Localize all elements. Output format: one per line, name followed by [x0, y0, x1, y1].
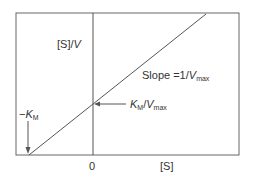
x-axis-label: [S] — [160, 160, 173, 172]
y-label-bracket: [S] — [57, 38, 70, 50]
x-intercept-arrowhead-icon — [26, 147, 31, 154]
hanes-woolf-plot — [0, 0, 254, 180]
slope-sub: max — [196, 75, 209, 82]
intercept-label: KM/Vmax — [130, 98, 167, 114]
intercept-sub2: max — [154, 104, 167, 111]
x-intercept-var: K — [25, 108, 32, 120]
y-label-var: V — [74, 38, 81, 50]
x-intercept-sub: M — [33, 114, 39, 121]
y-axis-label: [S]/V — [57, 38, 81, 50]
slope-label: Slope =1/Vmax — [142, 69, 209, 85]
x-intercept-label: −KM — [19, 108, 39, 124]
slope-prefix: Slope =1/ — [142, 69, 189, 81]
intercept-var2: V — [146, 98, 153, 110]
origin-label: 0 — [89, 160, 95, 172]
